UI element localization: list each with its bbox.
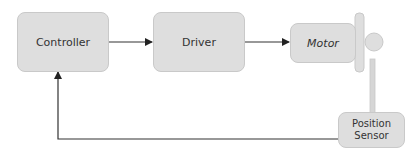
feedback-arrow — [58, 72, 338, 139]
driver-node: Driver — [153, 12, 245, 72]
driver-label: Driver — [182, 36, 216, 49]
sensor-label-line1: Position — [352, 118, 391, 130]
motor-label: Motor — [307, 37, 339, 50]
controller-node: Controller — [17, 12, 109, 72]
controller-label: Controller — [36, 36, 90, 49]
motor-node: Motor — [290, 23, 356, 63]
sensor-rod — [370, 59, 375, 113]
sensor-label-line2: Sensor — [354, 130, 388, 142]
motor-shaft — [365, 33, 383, 51]
motor-flange — [355, 13, 364, 72]
position-sensor-node: Position Sensor — [338, 112, 405, 148]
